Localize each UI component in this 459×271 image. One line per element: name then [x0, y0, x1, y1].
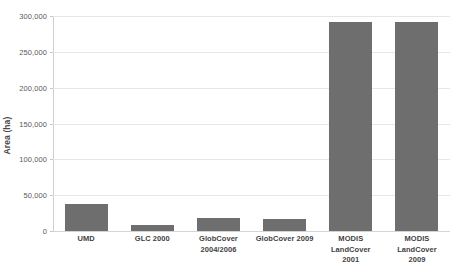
y-axis-tick-mark — [50, 159, 53, 160]
x-axis-tick-labels: UMDGLC 2000GlobCover2004/2006GlobCover 2… — [53, 234, 450, 266]
y-axis-title: Area (ha) — [0, 0, 14, 271]
bar — [263, 219, 306, 231]
y-axis-tick-label: 50,000 — [23, 191, 47, 200]
gridline — [53, 231, 450, 232]
y-axis-tick-mark — [50, 195, 53, 196]
bar — [329, 22, 372, 231]
x-axis-tick-label: MODIS LandCover2001 — [318, 234, 384, 266]
bar-slot — [252, 16, 318, 231]
y-axis-tick-label: 300,000 — [19, 12, 47, 21]
y-axis-tick-label: 0 — [43, 227, 47, 236]
bar-slot — [53, 16, 119, 231]
x-axis-tick-label: GLC 2000 — [119, 234, 185, 266]
bar — [395, 22, 438, 231]
y-axis-tick-label: 250,000 — [19, 47, 47, 56]
x-axis-tick-label: MODIS LandCover2009 — [384, 234, 450, 266]
bars-layer — [53, 16, 450, 231]
x-axis-tick-label: GlobCover2004/2006 — [185, 234, 251, 266]
y-axis-tick-mark — [50, 52, 53, 53]
bar-slot — [384, 16, 450, 231]
x-axis-tick-label: UMD — [53, 234, 119, 266]
bar — [197, 218, 240, 231]
bar-slot — [119, 16, 185, 231]
bar — [65, 204, 108, 231]
y-axis-tick-label: 100,000 — [19, 155, 47, 164]
plot-area — [53, 16, 450, 231]
bar-slot — [318, 16, 384, 231]
y-axis-tick-labels: 050,000100,000150,000200,000250,000300,0… — [14, 16, 50, 231]
y-axis-tick-mark — [50, 124, 53, 125]
y-axis-tick-mark — [50, 231, 53, 232]
bar-chart: Area (ha) 050,000100,000150,000200,00025… — [0, 0, 459, 271]
bar-slot — [185, 16, 251, 231]
bar — [131, 225, 174, 231]
y-axis-tick-mark — [50, 88, 53, 89]
y-axis-tick-mark — [50, 16, 53, 17]
y-axis-tick-label: 150,000 — [19, 119, 47, 128]
y-axis-tick-label: 200,000 — [19, 83, 47, 92]
x-axis-tick-label: GlobCover 2009 — [252, 234, 318, 266]
